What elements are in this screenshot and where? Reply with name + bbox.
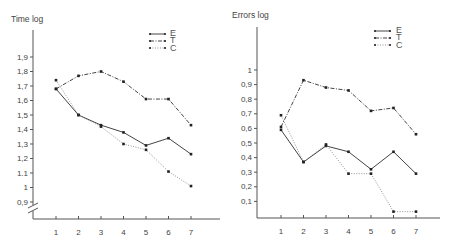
series-lines	[280, 79, 418, 213]
data-point	[77, 75, 80, 78]
y-tick-label: 1	[248, 66, 253, 75]
legend-c: C	[396, 40, 403, 50]
data-point	[167, 137, 170, 140]
errors-log-title: Errors log	[232, 10, 269, 20]
data-point	[100, 70, 103, 73]
x-tick-label: 2	[301, 227, 306, 236]
data-point	[325, 86, 328, 89]
data-point	[55, 79, 58, 82]
series-c-line	[281, 115, 416, 211]
y-tick-label: 0,4	[241, 153, 253, 162]
data-point	[167, 170, 170, 173]
data-point	[55, 88, 58, 91]
data-point	[370, 168, 373, 171]
x-tick-label: 4	[346, 227, 351, 236]
y-tick-label: 0,6	[241, 124, 253, 133]
y-tick-label: 0,5	[241, 139, 253, 148]
data-point	[190, 124, 193, 127]
x-tick-label: 1	[54, 228, 59, 237]
legend-c: C	[170, 43, 177, 53]
data-point	[347, 89, 350, 92]
y-tick-label: 1,3	[17, 140, 29, 149]
y-tick-label: 1.1	[17, 169, 29, 178]
data-point	[280, 114, 283, 117]
x-tick-label: 7	[414, 227, 419, 236]
x-tick-label: 1	[279, 227, 284, 236]
x-tick-label: 6	[166, 228, 171, 237]
y-tick-label: 0,9	[241, 80, 253, 89]
legend: E T C	[149, 28, 177, 53]
data-point	[302, 79, 305, 82]
data-point	[100, 125, 103, 128]
data-point	[122, 131, 125, 134]
data-point	[122, 80, 125, 83]
y-tick-label: 1,5	[17, 111, 29, 120]
data-point	[167, 98, 170, 101]
data-point	[392, 150, 395, 153]
data-point	[280, 126, 283, 129]
time-log-title: Time log	[11, 14, 44, 24]
data-point	[415, 210, 418, 213]
data-point	[145, 144, 148, 147]
data-point	[370, 172, 373, 175]
data-point	[370, 110, 373, 113]
data-point	[347, 172, 350, 175]
series-lines	[55, 70, 193, 187]
y-tick-label: 0,7	[241, 109, 253, 118]
data-point	[77, 114, 80, 117]
data-point	[280, 129, 283, 132]
x-tick-label: 3	[99, 228, 104, 237]
y-tick-label: 1,9	[17, 53, 29, 62]
x-tick-label: 4	[121, 228, 126, 237]
data-point	[415, 172, 418, 175]
data-point	[190, 185, 193, 188]
x-tick-label: 5	[144, 228, 149, 237]
y-tick-label: 1,2	[17, 154, 29, 163]
y-tick-label: 1	[24, 183, 29, 192]
data-point	[325, 143, 328, 146]
data-point	[392, 107, 395, 110]
y-tick-label: 1,7	[17, 82, 29, 91]
x-tick-label: 2	[76, 228, 81, 237]
y-tick-label: 1,6	[17, 96, 29, 105]
time-log-chart: Time log 0,911.11,21,31,41,51,61,71,81,9…	[11, 14, 220, 237]
data-point	[145, 149, 148, 152]
errors-log-chart: Errors log 0,10,20,30,40,50,60,70,80,91 …	[232, 10, 440, 236]
x-tick-label: 5	[369, 227, 374, 236]
x-tick-label: 7	[189, 228, 194, 237]
y-tick-label: 0,2	[241, 182, 253, 191]
y-ticks: 0,911.11,21,31,41,51,61,71,81,9	[17, 53, 33, 207]
y-tick-label: 0,1	[241, 197, 253, 206]
y-tick-label: 1,4	[17, 125, 29, 134]
y-tick-label: 0,8	[241, 95, 253, 104]
y-tick-label: 0,3	[241, 168, 253, 177]
data-point	[302, 161, 305, 164]
data-point	[190, 153, 193, 156]
series-t-line	[56, 72, 191, 126]
data-point	[347, 150, 350, 153]
y-tick-label: 1,8	[17, 67, 29, 76]
y-ticks: 0,10,20,30,40,50,60,70,80,91	[241, 66, 257, 206]
legend: E T C	[374, 25, 403, 50]
charts-canvas: Time log 0,911.11,21,31,41,51,61,71,81,9…	[0, 0, 452, 243]
x-tick-label: 3	[324, 227, 329, 236]
x-tick-label: 6	[391, 227, 396, 236]
data-point	[392, 210, 395, 213]
data-point	[145, 98, 148, 101]
series-t-line	[281, 80, 416, 134]
data-point	[122, 143, 125, 146]
y-tick-label: 0,9	[17, 198, 29, 207]
data-point	[415, 133, 418, 136]
